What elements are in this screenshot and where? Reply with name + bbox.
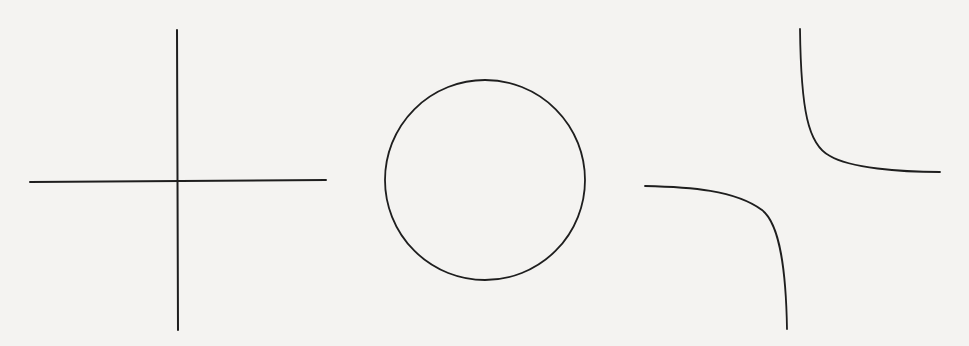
figure-canvas [0, 0, 969, 346]
cross-vertical-line [177, 30, 178, 330]
paper-background [0, 0, 969, 346]
diagram-svg [0, 0, 969, 346]
